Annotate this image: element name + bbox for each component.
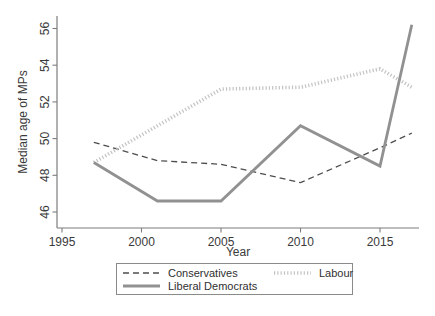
legend-line-sample-icon bbox=[123, 283, 160, 289]
legend-label: Liberal Democrats bbox=[168, 280, 257, 292]
legend-item-liberal-democrats: Liberal Democrats bbox=[123, 280, 274, 292]
y-axis-ticks: 464850525456 bbox=[38, 22, 57, 219]
figure: 464850525456 19952000200520102015 Median… bbox=[0, 0, 435, 316]
legend-label: Labour bbox=[319, 267, 353, 279]
x-tick-label: 1995 bbox=[49, 235, 76, 249]
x-axis-ticks: 19952000200520102015 bbox=[49, 228, 394, 249]
y-tick-label: 56 bbox=[38, 22, 52, 36]
x-tick-label: 2015 bbox=[367, 235, 394, 249]
legend-line-sample-icon bbox=[274, 270, 311, 276]
y-tick-label: 52 bbox=[38, 95, 52, 109]
legend-item-labour: Labour bbox=[274, 267, 353, 279]
legend-line-sample-icon bbox=[123, 270, 160, 276]
y-axis-title: Median age of MPs bbox=[16, 70, 30, 173]
y-tick-label: 54 bbox=[38, 58, 52, 72]
series-line-labour bbox=[94, 69, 412, 163]
legend-label: Conservatives bbox=[168, 267, 238, 279]
legend: ConservativesLabourLiberal Democrats bbox=[116, 263, 353, 295]
x-tick-label: 2000 bbox=[128, 235, 155, 249]
y-tick-label: 50 bbox=[38, 132, 52, 146]
series-lines bbox=[94, 25, 412, 201]
series-line-liberal-democrats bbox=[94, 25, 412, 201]
legend-item-conservatives: Conservatives bbox=[123, 267, 274, 279]
x-axis-title: Year bbox=[226, 245, 250, 259]
x-tick-label: 2010 bbox=[287, 235, 314, 249]
y-tick-label: 46 bbox=[38, 205, 52, 219]
y-tick-label: 48 bbox=[38, 168, 52, 182]
